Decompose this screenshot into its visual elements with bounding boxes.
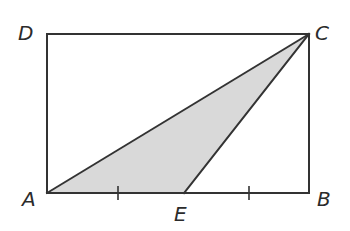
- label-c: C: [315, 21, 329, 45]
- label-e: E: [174, 202, 187, 226]
- geometry-diagram: D C A B E: [0, 0, 350, 231]
- label-a: A: [20, 187, 36, 211]
- label-b: B: [317, 187, 331, 211]
- label-d: D: [18, 21, 33, 45]
